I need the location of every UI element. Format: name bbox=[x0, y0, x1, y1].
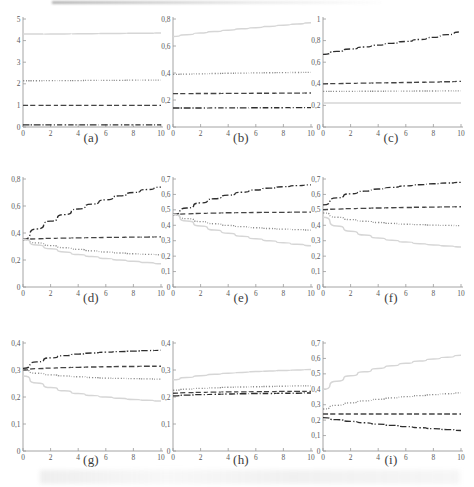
y-tick-label: 0,2 bbox=[311, 252, 321, 261]
y-tick-label: 0,1 bbox=[161, 420, 171, 429]
series-line-dotted bbox=[23, 80, 161, 81]
series-line-dotted bbox=[323, 213, 461, 226]
y-tick-label: 0,2 bbox=[11, 256, 21, 265]
axis-lines bbox=[173, 177, 313, 287]
y-tick-label: 0,4 bbox=[311, 221, 321, 230]
chart-panel-a: 0123450246810 bbox=[22, 18, 166, 140]
y-tick-label: 0,7 bbox=[311, 175, 321, 184]
axis-lines bbox=[323, 177, 463, 287]
y-tick-label: 0,7 bbox=[311, 339, 321, 348]
panel-caption-b: (b) bbox=[162, 130, 320, 146]
series-line-solid bbox=[323, 217, 461, 247]
y-tick-label: 0,2 bbox=[311, 416, 321, 425]
y-tick-label: 0,4 bbox=[11, 229, 21, 238]
y-tick-label: 0,1 bbox=[11, 420, 21, 429]
y-tick-label: 0,4 bbox=[161, 69, 171, 78]
series-line-dotted bbox=[323, 91, 461, 92]
y-tick-label: 2 bbox=[17, 79, 21, 88]
series-line-dashdot bbox=[323, 32, 461, 54]
chart-panel-i: 00,10,20,30,40,50,60,70246810 bbox=[322, 342, 466, 464]
series-line-dashdot bbox=[173, 393, 311, 396]
series-line-dotted bbox=[323, 393, 461, 409]
y-tick-label: 0,2 bbox=[311, 101, 321, 110]
y-tick-label: 5 bbox=[17, 15, 21, 24]
scan-artifact-bottom bbox=[40, 470, 460, 484]
chart-panel-b: 00,20,40,60,80246810 bbox=[172, 18, 316, 140]
y-tick-label: 0,4 bbox=[311, 385, 321, 394]
y-tick-label: 1 bbox=[317, 15, 321, 24]
series-line-dashed bbox=[173, 93, 311, 94]
y-tick-label: 0,4 bbox=[11, 339, 21, 348]
panel-caption-a: (a) bbox=[12, 130, 170, 146]
y-tick-label: 0,6 bbox=[161, 190, 171, 199]
figure-grid: 0123450246810(a)00,20,40,60,80246810(b)0… bbox=[0, 0, 474, 487]
series-line-solid bbox=[173, 23, 311, 37]
series-line-dashed bbox=[323, 81, 461, 83]
series-line-solid bbox=[173, 369, 311, 379]
y-tick-label: 0,1 bbox=[311, 431, 321, 440]
y-tick-label: 0,2 bbox=[11, 393, 21, 402]
y-tick-label: 0,6 bbox=[161, 42, 171, 51]
series-line-dotted bbox=[173, 386, 311, 390]
axis-lines bbox=[23, 177, 163, 287]
panel-caption-e: (e) bbox=[162, 290, 320, 306]
axis-lines bbox=[323, 17, 463, 127]
series-line-dashdot bbox=[23, 350, 161, 368]
y-tick-label: 0,3 bbox=[311, 236, 321, 245]
y-tick-label: 0,8 bbox=[11, 175, 21, 184]
y-tick-label: 0,5 bbox=[311, 369, 321, 378]
y-tick-label: 0,6 bbox=[311, 354, 321, 363]
series-line-solid bbox=[23, 376, 161, 401]
y-tick-label: 0,8 bbox=[311, 36, 321, 45]
series-line-dashdot bbox=[323, 418, 461, 431]
y-tick-label: 0,1 bbox=[311, 267, 321, 276]
panel-caption-g: (g) bbox=[12, 452, 170, 468]
y-tick-label: 0,8 bbox=[161, 15, 171, 24]
y-tick-label: 0,7 bbox=[161, 175, 171, 184]
y-tick-label: 0,5 bbox=[161, 205, 171, 214]
y-tick-label: 3 bbox=[17, 58, 21, 67]
series-line-dashed bbox=[323, 207, 461, 210]
series-line-dotted bbox=[173, 72, 311, 74]
series-line-solid bbox=[323, 355, 461, 389]
y-tick-label: 1 bbox=[17, 101, 21, 110]
series-line-dashed bbox=[173, 212, 311, 214]
series-line-dashdot bbox=[323, 182, 461, 205]
panel-caption-h: (h) bbox=[162, 452, 320, 468]
chart-panel-d: 00,20,40,60,80246810 bbox=[22, 178, 166, 300]
y-tick-label: 0,5 bbox=[311, 205, 321, 214]
y-tick-label: 0,3 bbox=[161, 366, 171, 375]
y-tick-label: 0,3 bbox=[161, 236, 171, 245]
axis-lines bbox=[173, 341, 313, 451]
panel-caption-d: (d) bbox=[12, 290, 170, 306]
y-tick-label: 4 bbox=[17, 36, 21, 45]
y-tick-label: 0,2 bbox=[161, 252, 171, 261]
y-tick-label: 0,4 bbox=[311, 79, 321, 88]
panel-caption-f: (f) bbox=[312, 290, 470, 306]
chart-panel-e: 00,10,20,30,40,50,60,70246810 bbox=[172, 178, 316, 300]
y-tick-label: 0,3 bbox=[11, 366, 21, 375]
series-line-dashdot bbox=[23, 187, 161, 239]
y-tick-label: 0,2 bbox=[161, 393, 171, 402]
scan-artifact-top bbox=[52, 1, 382, 4]
series-line-solid bbox=[23, 33, 161, 34]
y-tick-label: 0,6 bbox=[11, 202, 21, 211]
y-tick-label: 0,3 bbox=[311, 400, 321, 409]
series-line-dotted bbox=[23, 370, 161, 379]
chart-panel-c: 00,20,40,60,810246810 bbox=[322, 18, 466, 140]
series-line-dashdot bbox=[173, 185, 311, 215]
y-tick-label: 0,6 bbox=[311, 58, 321, 67]
series-line-dashed bbox=[23, 237, 161, 240]
chart-panel-h: 00,10,20,30,40246810 bbox=[172, 342, 316, 464]
y-tick-label: 0,4 bbox=[161, 221, 171, 230]
y-tick-label: 0,1 bbox=[161, 267, 171, 276]
panel-caption-c: (c) bbox=[312, 130, 470, 146]
panel-caption-i: (i) bbox=[312, 452, 470, 468]
chart-panel-g: 00,10,20,30,40246810 bbox=[22, 342, 166, 464]
y-tick-label: 0,4 bbox=[161, 339, 171, 348]
chart-panel-f: 00,10,20,30,40,50,60,70246810 bbox=[322, 178, 466, 300]
series-line-dashed bbox=[23, 366, 161, 370]
y-tick-label: 0,6 bbox=[311, 190, 321, 199]
y-tick-label: 0,2 bbox=[161, 96, 171, 105]
